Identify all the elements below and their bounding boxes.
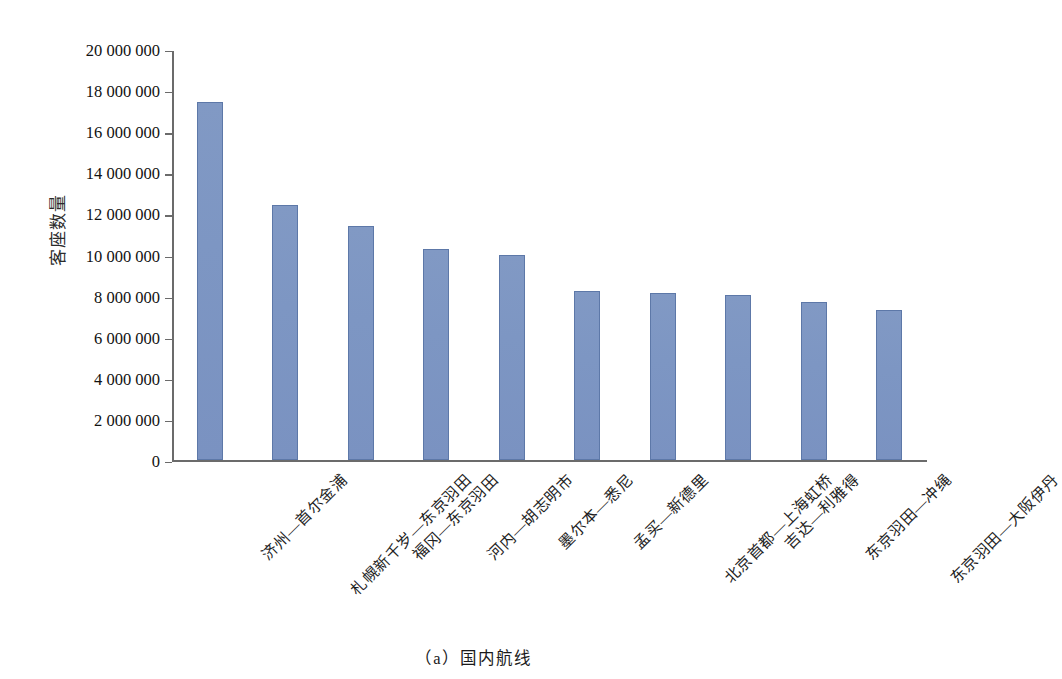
bar [423, 249, 449, 461]
x-tick-label: 孟买—新德里 [628, 468, 712, 552]
bar [574, 291, 600, 461]
y-tick-mark [165, 133, 172, 134]
y-axis-line [172, 51, 174, 462]
x-tick-label: 东京羽田—冲绳 [859, 468, 955, 564]
y-tick-mark [165, 92, 172, 93]
y-tick-mark [165, 51, 172, 52]
y-tick-label: 12 000 000 [62, 205, 160, 225]
plot-area [172, 51, 927, 462]
y-tick-mark [165, 215, 172, 216]
bar [876, 310, 902, 460]
y-tick-label: 4 000 000 [62, 370, 160, 390]
bar [650, 293, 676, 460]
y-tick-mark [165, 339, 172, 340]
x-tick-label: 东京羽田—大阪伊丹 [944, 468, 1062, 587]
bar [801, 302, 827, 460]
y-tick-label: 16 000 000 [62, 123, 160, 143]
y-axis-tick-labels: 20 000 00018 000 00016 000 00014 000 000… [62, 41, 160, 473]
figure-caption: （a）国内航线 [0, 645, 947, 669]
y-tick-label: 2 000 000 [62, 411, 160, 431]
bar [725, 295, 751, 460]
x-tick-label: 济州—首尔金浦 [255, 468, 351, 564]
bar [272, 205, 298, 461]
bar [197, 102, 223, 461]
y-tick-label: 20 000 000 [62, 41, 160, 61]
x-axis-tick-labels: 济州—首尔金浦札幌新千岁—东京羽田福冈—东京羽田河内—胡志明市墨尔本—悉尼孟买—… [172, 462, 927, 632]
y-tick-label: 8 000 000 [62, 288, 160, 308]
bar [348, 226, 374, 460]
y-tick-mark [165, 298, 172, 299]
x-tick-label: 札幌新千岁—东京羽田 [345, 468, 475, 598]
y-tick-label: 6 000 000 [62, 329, 160, 349]
y-tick-mark [165, 257, 172, 258]
y-tick-label: 10 000 000 [62, 247, 160, 267]
y-tick-mark [165, 174, 172, 175]
y-tick-label: 18 000 000 [62, 82, 160, 102]
y-tick-mark [165, 462, 172, 463]
bar [499, 255, 525, 461]
y-tick-mark [165, 421, 172, 422]
y-tick-label: 0 [62, 452, 160, 472]
y-tick-mark [165, 380, 172, 381]
y-tick-label: 14 000 000 [62, 164, 160, 184]
